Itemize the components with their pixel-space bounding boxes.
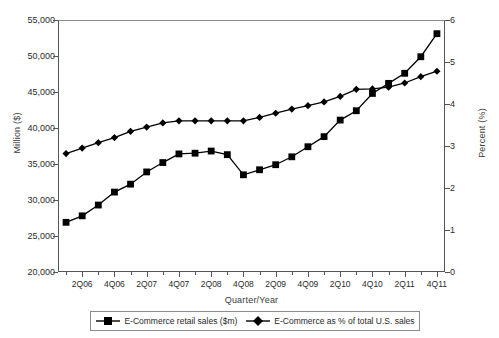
data-point-square	[111, 189, 118, 196]
x-axis-tick-mark	[195, 272, 196, 275]
data-point-diamond	[353, 86, 360, 93]
data-point-diamond	[224, 117, 231, 124]
data-point-diamond	[159, 119, 166, 126]
data-point-diamond	[240, 117, 247, 124]
y-axis-right-tick-mark	[445, 188, 450, 189]
data-point-diamond	[95, 139, 102, 146]
data-point-diamond	[62, 150, 69, 157]
data-point-diamond	[256, 114, 263, 121]
data-point-diamond	[175, 117, 182, 124]
x-axis-tick-label: 4Q09	[298, 279, 319, 289]
y-axis-right-tick-label: 2	[450, 183, 474, 193]
y-axis-right-tick-mark	[445, 230, 450, 231]
x-axis-title: Quarter/Year	[58, 295, 445, 305]
data-point-square	[434, 30, 441, 37]
y-axis-right-tick-label: 0	[450, 267, 474, 277]
legend-label-sales: E-Commerce retail sales ($m)	[124, 316, 237, 326]
y-axis-right-tick-label: 6	[450, 15, 474, 25]
y-axis-left-tick-label: 55,000	[3, 15, 55, 25]
data-point-square	[353, 107, 360, 114]
x-axis-tick-label: 4Q06	[104, 279, 125, 289]
x-axis-tick-label: 4Q10	[362, 279, 383, 289]
x-axis-tick-mark	[114, 272, 115, 277]
y-axis-left-tick-label: 45,000	[3, 87, 55, 97]
data-point-diamond	[433, 68, 440, 75]
data-point-diamond	[111, 134, 118, 141]
data-point-diamond	[320, 98, 327, 105]
x-axis-tick-mark	[421, 272, 422, 275]
y-axis-left-tick-mark	[53, 128, 58, 129]
x-axis-tick-mark	[131, 272, 132, 275]
y-axis-left-tick-mark	[53, 200, 58, 201]
data-point-square	[176, 151, 183, 158]
x-axis-tick-label: 2Q08	[201, 279, 222, 289]
y-axis-left-tick-label: 40,000	[3, 123, 55, 133]
x-axis-tick-mark	[276, 272, 277, 277]
x-axis-tick-mark	[211, 272, 212, 277]
data-point-square	[272, 161, 279, 168]
x-axis-tick-label: 2Q10	[330, 279, 351, 289]
x-axis-tick-mark	[147, 272, 148, 277]
x-axis-tick-mark	[340, 272, 341, 277]
data-point-diamond	[272, 110, 279, 117]
data-point-square	[159, 159, 166, 166]
data-point-square	[224, 151, 231, 158]
y-axis-left-tick-label: 35,000	[3, 159, 55, 169]
x-axis-tick-mark	[227, 272, 228, 275]
data-point-diamond	[304, 102, 311, 109]
y-axis-right-tick-mark	[445, 20, 450, 21]
y-axis-right-tick-label: 3	[450, 141, 474, 151]
x-axis-tick-mark	[437, 272, 438, 277]
y-axis-right-ticks: 6543210	[450, 20, 480, 272]
data-point-square	[417, 53, 424, 60]
data-point-diamond	[143, 124, 150, 131]
chart-figure: 55,00050,00045,00040,00035,00030,00025,0…	[0, 0, 499, 338]
x-axis-tick-mark	[372, 272, 373, 277]
x-axis-tick-label: 2Q09	[265, 279, 286, 289]
x-axis-tick-mark	[405, 272, 406, 277]
data-point-diamond	[208, 117, 215, 124]
chart-legend: E-Commerce retail sales ($m) E-Commerce …	[90, 311, 420, 331]
y-axis-left-tick-mark	[53, 164, 58, 165]
x-axis-tick-mark	[66, 272, 67, 275]
x-axis-tick-mark	[356, 272, 357, 275]
y-axis-left-tick-mark	[53, 92, 58, 93]
x-axis-tick-label: 4Q07	[169, 279, 190, 289]
series-line	[66, 71, 437, 153]
data-point-square	[305, 143, 312, 150]
data-point-square	[288, 153, 295, 160]
x-axis-tick-label: 4Q08	[233, 279, 254, 289]
data-point-diamond	[79, 145, 86, 152]
y-axis-left-ticks: 55,00050,00045,00040,00035,00030,00025,0…	[0, 20, 55, 272]
data-point-square	[240, 171, 247, 178]
plot-series-svg	[58, 20, 445, 272]
y-axis-right-tick-mark	[445, 62, 450, 63]
y-axis-left-tick-mark	[53, 20, 58, 21]
data-point-diamond	[417, 73, 424, 80]
y-axis-right-title: Percent (%)	[477, 83, 487, 183]
x-axis-tick-mark	[82, 272, 83, 277]
x-axis-tick-label: 2Q11	[395, 279, 415, 289]
data-point-diamond	[191, 117, 198, 124]
series-line	[66, 34, 437, 223]
y-axis-right-tick-label: 5	[450, 57, 474, 67]
y-axis-left-tick-mark	[53, 56, 58, 57]
x-axis-tick-mark	[179, 272, 180, 277]
x-axis-tick-label: 2Q07	[136, 279, 157, 289]
y-axis-left-tick-label: 50,000	[3, 51, 55, 61]
square-marker-icon	[95, 315, 121, 327]
y-axis-right-tick-mark	[445, 104, 450, 105]
y-axis-left-tick-label: 25,000	[3, 231, 55, 241]
data-point-diamond	[288, 105, 295, 112]
data-point-square	[79, 212, 86, 219]
data-point-diamond	[401, 79, 408, 86]
y-axis-left-tick-label: 20,000	[3, 267, 55, 277]
x-axis-tick-label: 2Q06	[72, 279, 93, 289]
data-point-square	[337, 117, 344, 124]
data-point-square	[63, 219, 70, 226]
data-point-square	[208, 148, 215, 155]
series-2	[62, 68, 440, 158]
x-axis-tick-mark	[308, 272, 309, 277]
y-axis-right-tick-label: 1	[450, 225, 474, 235]
data-point-diamond	[337, 93, 344, 100]
